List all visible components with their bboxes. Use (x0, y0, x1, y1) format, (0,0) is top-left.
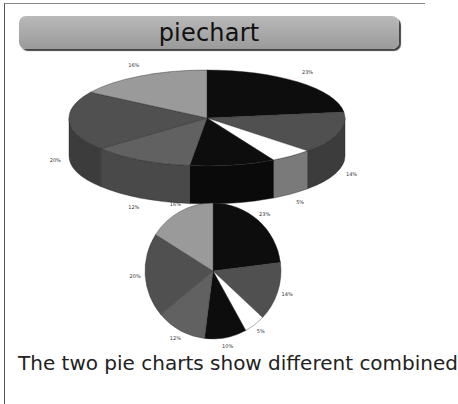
pie-3d-label: 20% (50, 157, 61, 163)
pie-3d-label: 12% (128, 204, 139, 210)
pie-3d-label: 23% (302, 69, 313, 75)
pie-3d: 23%14%5%10%12%20%16% (50, 62, 358, 216)
pie-2d-label: 20% (130, 273, 141, 279)
pie-2d-label: 5% (257, 328, 265, 334)
pie-2d-label: 23% (259, 211, 270, 217)
pie-3d-label: 14% (346, 171, 357, 177)
pie-2d-slice (213, 203, 280, 271)
caption-text: The two pie charts show different combin… (18, 351, 458, 375)
pie-3d-label: 16% (128, 62, 139, 68)
pie-3d-side (190, 160, 274, 204)
pie-2d: 23%14%5%10%12%20%16% (130, 201, 293, 348)
pie-2d-label: 10% (222, 343, 233, 349)
pie-3d-slice (207, 70, 344, 118)
pie-2d-label: 12% (170, 335, 181, 341)
pie-2d-label: 16% (170, 201, 181, 207)
pie-2d-label: 14% (282, 291, 293, 297)
pie-3d-label: 5% (296, 199, 304, 205)
